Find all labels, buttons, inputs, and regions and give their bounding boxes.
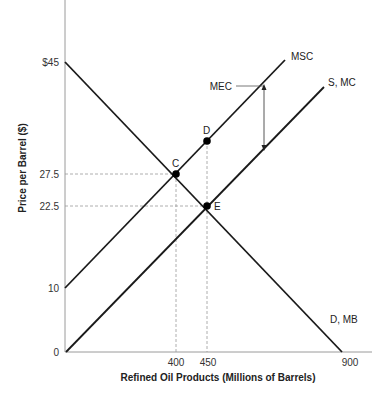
x-tick-400: 400: [168, 357, 185, 368]
y-axis-title: Price per Barrel ($): [17, 123, 28, 213]
point-d: [203, 137, 211, 145]
point-c-label: C: [172, 158, 179, 169]
point-e-label: E: [214, 201, 221, 212]
y-tick-27-5: 27.5: [40, 169, 60, 180]
market-externality-chart: MEC C D E MSC S, MC D, MB $45 27.5 22.5 …: [0, 0, 392, 405]
s-mc-label: S, MC: [328, 77, 356, 88]
d-mb-label: D, MB: [330, 314, 358, 325]
y-tick-45: $45: [42, 57, 59, 68]
msc-label: MSC: [291, 51, 313, 62]
point-c: [172, 170, 180, 178]
point-e: [203, 202, 211, 210]
mec-label: MEC: [210, 81, 232, 92]
x-tick-900: 900: [342, 357, 359, 368]
x-tick-450: 450: [200, 357, 217, 368]
supply-curve-s-mc: [66, 87, 324, 352]
point-d-label: D: [203, 125, 210, 136]
x-axis-title: Refined Oil Products (Millions of Barrel…: [120, 372, 315, 383]
y-tick-10: 10: [48, 283, 60, 294]
mec-arrow-head-up: [262, 84, 267, 90]
y-tick-0: 0: [53, 347, 59, 358]
y-tick-22-5: 22.5: [40, 201, 60, 212]
